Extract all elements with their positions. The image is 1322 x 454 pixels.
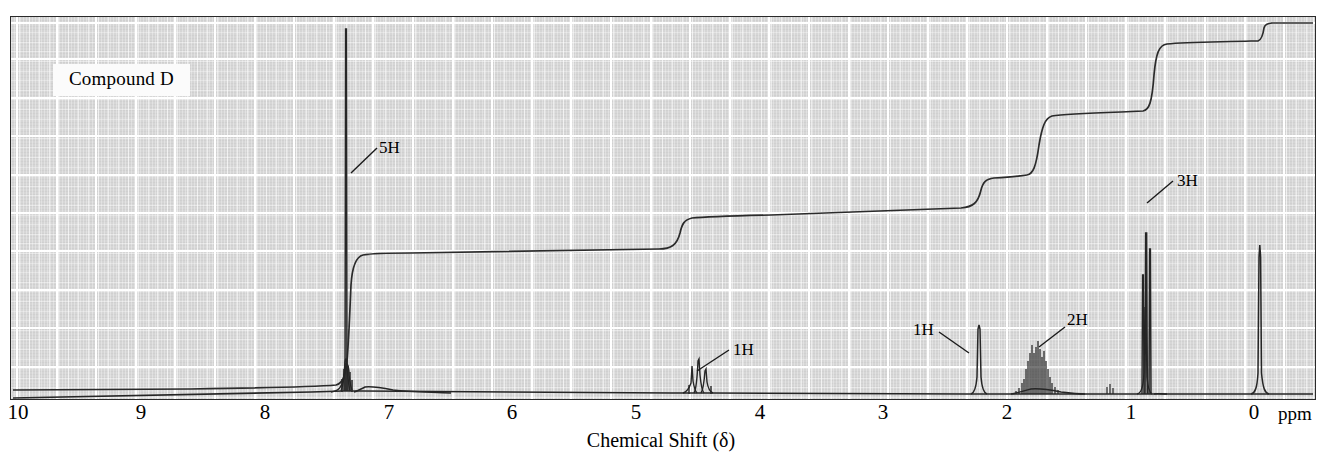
peak-group-multiplet-1-7: [1011, 341, 1085, 394]
x-tick-9: 9: [136, 402, 147, 423]
x-axis-caption: Chemical Shift (δ): [0, 430, 1322, 450]
x-tick-0: 0: [1249, 402, 1260, 423]
x-tick-8: 8: [260, 402, 271, 423]
x-axis-caption-prefix: Chemical Shift (: [587, 429, 719, 451]
x-tick-5: 5: [631, 402, 642, 423]
x-tick-6: 6: [507, 402, 518, 423]
x-tick-1: 1: [1126, 402, 1137, 423]
x-axis-unit-label: ppm: [1278, 404, 1312, 423]
nmr-spectrum-figure: Compound D 5H 1H 1H 2H 3H 10 9 8 7 6 5 4…: [0, 0, 1322, 454]
peak-group-methine: [683, 359, 713, 394]
peak-group-methyl-triplet: [1137, 233, 1167, 394]
spectrum-traces: [11, 17, 1315, 399]
annotation-3h: 3H: [1177, 172, 1198, 189]
spectrum-baseline: [13, 391, 1313, 398]
peak-group-tms: [1251, 245, 1269, 394]
annotation-5h: 5H: [379, 139, 400, 156]
x-tick-2: 2: [1002, 402, 1013, 423]
integration-trace: [13, 23, 1313, 390]
x-tick-4: 4: [755, 402, 766, 423]
annotation-1h-methine: 1H: [913, 321, 934, 338]
x-axis-caption-suffix: ): [728, 429, 735, 451]
peak-group-minor-1-3: [1107, 384, 1113, 394]
x-tick-3: 3: [878, 402, 889, 423]
annotation-1h-benzylic: 1H: [733, 341, 754, 358]
sample-label: Compound D: [53, 64, 190, 96]
x-axis: 10 9 8 7 6 5 4 3 2 1 0 ppm Chemical Shif…: [0, 400, 1322, 454]
annotation-2h: 2H: [1067, 311, 1088, 328]
x-tick-10: 10: [8, 402, 29, 423]
x-tick-7: 7: [384, 402, 395, 423]
spectrum-plot-area: Compound D 5H 1H 1H 2H 3H: [10, 16, 1316, 400]
peak-group-singlet-2-3: [971, 325, 987, 394]
